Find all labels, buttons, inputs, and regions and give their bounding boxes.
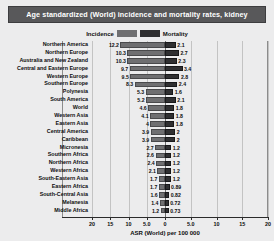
incidence-value: 5.2 [137,97,144,103]
mortality-value: 0.73 [170,208,180,214]
mortality-cell: 1.2 [165,159,268,167]
incidence-bar [146,97,165,103]
incidence-value: 1.2 [152,208,159,214]
incidence-bar [150,113,165,119]
mortality-cell: 0.89 [165,183,268,191]
mortality-bar [165,184,170,190]
incidence-cell: 9.7 [92,65,165,73]
mortality-cell: 2.4 [165,80,268,88]
chart-row: South America5.22.1 [0,96,274,104]
category-label: South-Central Asia [0,191,88,199]
chart-row: Micronesia2.71.2 [0,144,274,152]
axis-tick [110,217,111,220]
chart-row: Northern Africa2.41.2 [0,159,274,167]
chart-row: Polynesia5.31.6 [0,88,274,96]
incidence-bar [130,74,165,80]
incidence-cell: 1.6 [92,191,165,199]
incidence-cell: 1.2 [92,207,165,215]
mortality-value: 1.6 [175,89,182,95]
incidence-value: 2.4 [148,160,155,166]
chart-row: Western Asia4.11.8 [0,112,274,120]
chart-row: Central and Eastern Europe9.73.4 [0,65,274,73]
incidence-value: 1.7 [150,184,157,190]
axis-tick-label: 5.0 [143,221,151,227]
chart-row: Eastern Africa1.70.89 [0,183,274,191]
mortality-value: 2.3 [178,58,185,64]
chart-legend: Incidence Mortality [0,28,274,39]
incidence-cell: 1.7 [92,183,165,191]
category-label: Caribbean [0,136,88,144]
category-label: Northern America [0,41,88,49]
category-label: Eastern Africa [0,183,88,191]
axis-tick-label: 5.0 [187,221,195,227]
mortality-bar [165,121,174,127]
mortality-bar [165,168,171,174]
incidence-cell: 8.3 [92,80,165,88]
incidence-bar [130,66,165,72]
category-label: Western Africa [0,167,88,175]
page-title: Age standardized (World) incidence and m… [26,10,247,19]
legend-label-incidence: Incidence [86,31,114,37]
mortality-bar [165,89,173,95]
category-label: South America [0,96,88,104]
incidence-cell: 10.3 [92,49,165,57]
incidence-cell: 5.2 [92,96,165,104]
incidence-value: 2.6 [147,152,154,158]
incidence-bar [156,153,165,159]
mortality-cell: 0.73 [165,207,268,215]
legend-label-mortality: Mortality [163,31,188,37]
axis-tick [217,217,218,220]
incidence-bar [155,145,165,151]
mortality-value: 0.82 [171,192,181,198]
chart-row: Middle Africa1.20.73 [0,207,274,215]
incidence-cell: 2.6 [92,151,165,159]
incidence-bar [151,137,165,143]
mortality-cell: 2.1 [165,41,268,49]
chart-row: Northern Europe10.32.7 [0,49,274,57]
incidence-value: 2.1 [149,168,156,174]
mortality-value: 1.2 [173,145,180,151]
incidence-bar [150,121,165,127]
incidence-cell: 4 [92,120,165,128]
incidence-bar [135,82,165,88]
incidence-cell: 12.2 [92,41,165,49]
category-label: Northern Europe [0,49,88,57]
chart-row: South-Central Asia1.60.82 [0,191,274,199]
incidence-value: 3.9 [142,137,149,143]
mortality-bar [165,153,171,159]
mortality-value: 1.2 [173,160,180,166]
mortality-value: 1.2 [173,168,180,174]
mortality-bar [165,145,171,151]
plot-area: Northern America12.22.1Northern Europe10… [0,41,274,217]
incidence-value: 9.7 [121,66,128,72]
mortality-cell: 2 [165,136,268,144]
incidence-bar [157,168,165,174]
chart-row: Melanesia1.40.72 [0,199,274,207]
incidence-value: 1.4 [151,200,158,206]
axis-tick [92,217,93,220]
category-label: Melanesia [0,199,88,207]
category-label: Middle Africa [0,207,88,215]
mortality-cell: 1.2 [165,144,268,152]
mortality-cell: 2.1 [165,96,268,104]
incidence-cell: 4.6 [92,104,165,112]
category-label: Northern Africa [0,159,88,167]
mortality-value: 2.8 [181,74,188,80]
incidence-cell: 2.1 [92,167,165,175]
axis-tick [191,217,192,220]
incidence-cell: 2.4 [92,159,165,167]
incidence-cell: 1.7 [92,175,165,183]
mortality-cell: 1.2 [165,151,268,159]
incidence-cell: 4.1 [92,112,165,120]
mortality-bar [165,192,169,198]
chart-page: Age standardized (World) incidence and m… [0,0,274,241]
x-axis-title: ASR (World) per 100 000 [62,230,268,236]
axis-tick [242,217,243,220]
incidence-value: 10.3 [116,58,126,64]
axis-tick-label: 10 [126,221,132,227]
incidence-bar [127,58,165,64]
chart-row: Caribbean3.92 [0,136,274,144]
axis-tick-label: 10 [214,221,220,227]
incidence-cell: 5.3 [92,88,165,96]
category-label: Western Asia [0,112,88,120]
